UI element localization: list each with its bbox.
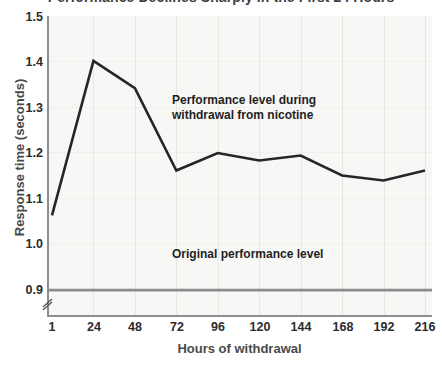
- x-tick-label: 216: [415, 320, 436, 334]
- series-line-withdrawal: [52, 61, 425, 215]
- series-annotation-label: Performance level during withdrawal from…: [172, 93, 316, 123]
- x-axis-line: [47, 315, 432, 317]
- x-tick-label: 72: [170, 320, 184, 334]
- chart-title: Performance Declines Sharply in the Firs…: [0, 0, 442, 5]
- x-tick-label: 48: [128, 320, 142, 334]
- x-tick-label: 168: [333, 320, 354, 334]
- baseline-annotation-label: Original performance level: [172, 247, 323, 262]
- x-tick-label: 144: [291, 320, 312, 334]
- x-tick-label: 192: [374, 320, 395, 334]
- x-tick-label: 96: [211, 320, 225, 334]
- x-tick-label: 1: [49, 320, 56, 334]
- x-axis-title: Hours of withdrawal: [47, 341, 432, 356]
- y-tick-label: 1.5: [3, 10, 43, 24]
- y-tick-label: 0.9: [3, 283, 43, 297]
- y-axis-title: Response time (seconds): [12, 43, 27, 273]
- x-tick-label: 120: [250, 320, 271, 334]
- data-layer: [47, 16, 432, 315]
- response-time-line-chart: Performance Declines Sharply in the Firs…: [0, 0, 442, 367]
- x-tick-label: 24: [87, 320, 101, 334]
